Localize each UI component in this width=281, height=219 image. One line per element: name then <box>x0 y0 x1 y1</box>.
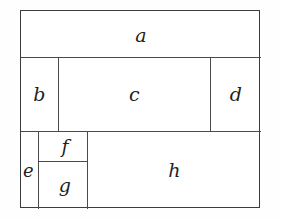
region-a: a <box>21 11 261 58</box>
region-e-label: e <box>23 162 34 180</box>
region-c-label: c <box>129 85 140 104</box>
region-d-label: d <box>230 85 242 104</box>
region-h-label: h <box>168 161 180 180</box>
dissected-rectangle: a b c d e f g h <box>20 10 260 208</box>
diagram-canvas: a b c d e f g h <box>0 0 281 219</box>
region-b-label: b <box>33 85 45 104</box>
region-f-label: f <box>61 137 68 156</box>
region-a-label: a <box>135 26 147 45</box>
region-e: e <box>21 132 39 209</box>
region-b: b <box>21 58 59 132</box>
region-c: c <box>59 58 211 132</box>
region-g: g <box>39 162 88 209</box>
region-g-label: g <box>59 176 71 195</box>
region-d: d <box>211 58 261 132</box>
region-f: f <box>39 132 88 162</box>
region-h: h <box>88 132 261 209</box>
